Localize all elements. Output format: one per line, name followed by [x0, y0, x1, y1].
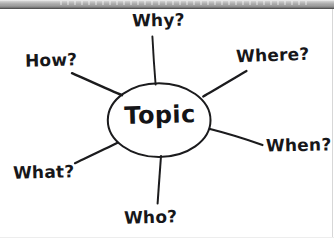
spoke-line-why [152, 37, 155, 85]
spoke-line-how [72, 73, 122, 95]
spoke-line-when [210, 129, 263, 145]
node-label-where: Where? [236, 44, 310, 67]
spoke-line-what [75, 143, 118, 163]
node-label-what: What? [13, 161, 75, 183]
node-label-why: Why? [132, 9, 185, 30]
topic-label: Topic [118, 100, 203, 130]
node-label-how: How? [25, 49, 78, 70]
node-label-who: Who? [124, 206, 178, 227]
spoke-line-where [203, 71, 246, 97]
node-label-when: When? [266, 134, 332, 155]
spoke-line-who [158, 156, 161, 204]
spider-diagram-canvas: Topic Why? Where? How? When? What? Who? [0, 0, 334, 238]
